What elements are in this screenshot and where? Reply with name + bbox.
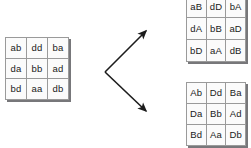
matrix-cell: da (6, 59, 26, 79)
matrix-cell: Ab (187, 83, 206, 103)
matrix-cell: Db (226, 125, 245, 145)
matrix-cell: aD (226, 18, 245, 39)
matrix-cell: dd (27, 38, 47, 58)
branching-arrow-icon (98, 20, 158, 124)
upper-result-matrix: aB dD bA dA bB aD bD aA dB (186, 0, 246, 62)
matrix-cell: Bb (207, 104, 226, 124)
matrix-cell: dA (187, 18, 206, 39)
arrow-upper-branch (105, 31, 146, 72)
matrix-cell: Ad (226, 104, 245, 124)
matrix-cell: ab (6, 38, 26, 58)
source-matrix: ab dd ba da bb ad bd aa db (5, 37, 69, 100)
matrix-cell: bA (226, 0, 245, 17)
arrow-lower-branch (105, 72, 146, 111)
diagram-canvas: ab dd ba da bb ad bd aa db aB dD bA dA b… (0, 0, 251, 148)
matrix-cell: bd (6, 79, 26, 99)
matrix-cell: Ba (226, 83, 245, 103)
matrix-cell: ba (48, 38, 68, 58)
matrix-cell: aA (207, 40, 226, 61)
matrix-cell: bD (187, 40, 206, 61)
matrix-cell: db (48, 79, 68, 99)
matrix-cell: aa (27, 79, 47, 99)
matrix-cell: Dd (207, 83, 226, 103)
matrix-cell: dD (207, 0, 226, 17)
matrix-cell: aB (187, 0, 206, 17)
matrix-cell: Da (187, 104, 206, 124)
lower-result-matrix: Ab Dd Ba Da Bb Ad Bd Aa Db (186, 82, 246, 146)
matrix-cell: Aa (207, 125, 226, 145)
matrix-cell: ad (48, 59, 68, 79)
matrix-cell: Bd (187, 125, 206, 145)
matrix-cell: bB (207, 18, 226, 39)
matrix-cell: bb (27, 59, 47, 79)
matrix-cell: dB (226, 40, 245, 61)
